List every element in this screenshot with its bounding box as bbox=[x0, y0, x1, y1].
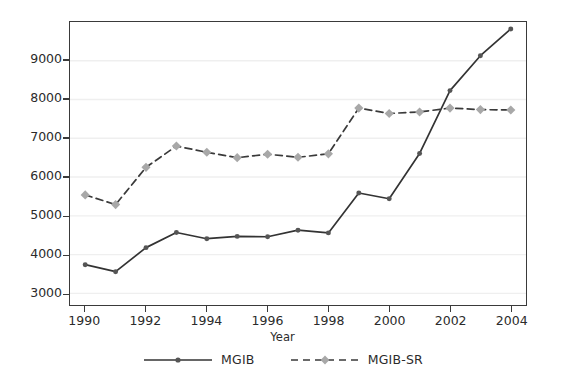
legend-label-mgib: MGIB bbox=[221, 352, 255, 367]
legend-swatch-solid-circle bbox=[142, 353, 214, 367]
x-tick-mark bbox=[84, 306, 85, 312]
y-tick-label: 5000 bbox=[30, 209, 62, 222]
data-point-marker-mgib-sr bbox=[506, 105, 515, 114]
chart-legend: MGIB MGIB-SR bbox=[0, 352, 565, 367]
x-tick-label: 1996 bbox=[252, 315, 284, 328]
data-point-marker-mgib bbox=[296, 228, 301, 233]
data-point-marker-mgib-sr bbox=[293, 153, 302, 162]
data-point-marker-mgib-sr bbox=[415, 107, 424, 116]
x-tick-mark bbox=[206, 306, 207, 312]
data-point-marker-mgib bbox=[174, 230, 179, 235]
y-tick-label: 6000 bbox=[30, 170, 62, 183]
x-tick-label: 1998 bbox=[313, 315, 345, 328]
data-point-marker-mgib-sr bbox=[324, 149, 333, 158]
data-point-marker-mgib bbox=[204, 236, 209, 241]
data-point-marker-mgib-sr bbox=[385, 109, 394, 118]
data-series-layer bbox=[70, 22, 526, 305]
data-point-marker-mgib-sr bbox=[233, 153, 242, 162]
y-tick-mark bbox=[63, 176, 69, 177]
legend-entry-mgib-sr: MGIB-SR bbox=[289, 352, 423, 367]
x-tick-label: 2004 bbox=[496, 315, 528, 328]
legend-entry-mgib: MGIB bbox=[142, 352, 255, 367]
data-point-marker-mgib-sr bbox=[202, 148, 211, 157]
data-point-marker-mgib bbox=[235, 234, 240, 239]
data-point-marker-mgib-sr bbox=[81, 190, 90, 199]
data-point-marker-mgib bbox=[326, 230, 331, 235]
data-point-marker-mgib-sr bbox=[476, 105, 485, 114]
x-tick-label: 1994 bbox=[190, 315, 222, 328]
x-tick-label: 1992 bbox=[129, 315, 161, 328]
y-tick-mark bbox=[63, 98, 69, 99]
chart-figure: 3000400050006000700080009000 19901992199… bbox=[0, 0, 565, 388]
data-point-marker-mgib-sr bbox=[445, 103, 454, 112]
x-tick-mark bbox=[511, 306, 512, 312]
data-point-marker-mgib bbox=[478, 53, 483, 58]
data-point-marker-mgib bbox=[144, 245, 149, 250]
y-tick-label: 8000 bbox=[30, 92, 62, 105]
data-point-marker-mgib-sr bbox=[172, 141, 181, 150]
x-tick-mark bbox=[145, 306, 146, 312]
series-line-mgib bbox=[85, 29, 511, 272]
data-point-marker-mgib bbox=[417, 151, 422, 156]
x-tick-mark bbox=[267, 306, 268, 312]
data-point-marker-mgib bbox=[387, 196, 392, 201]
data-point-marker-mgib bbox=[448, 88, 453, 93]
data-point-marker-mgib bbox=[113, 269, 118, 274]
x-tick-label: 2000 bbox=[374, 315, 406, 328]
x-tick-mark bbox=[328, 306, 329, 312]
x-tick-mark bbox=[389, 306, 390, 312]
x-tick-label: 2002 bbox=[435, 315, 467, 328]
y-tick-mark bbox=[63, 137, 69, 138]
data-point-marker-mgib bbox=[265, 234, 270, 239]
plot-area bbox=[69, 21, 527, 306]
y-tick-mark bbox=[63, 216, 69, 217]
x-tick-mark bbox=[450, 306, 451, 312]
data-point-marker-mgib-sr bbox=[354, 103, 363, 112]
data-point-marker-mgib-sr bbox=[263, 150, 272, 159]
y-tick-mark bbox=[63, 255, 69, 256]
legend-swatch-dashed-diamond bbox=[289, 353, 361, 367]
legend-label-mgib-sr: MGIB-SR bbox=[368, 352, 423, 367]
data-point-marker-mgib bbox=[356, 190, 361, 195]
y-tick-label: 7000 bbox=[30, 131, 62, 144]
y-tick-label: 4000 bbox=[30, 248, 62, 261]
y-tick-mark bbox=[63, 294, 69, 295]
x-axis-title: Year bbox=[0, 330, 565, 344]
x-tick-label: 1990 bbox=[68, 315, 100, 328]
data-point-marker-mgib bbox=[83, 262, 88, 267]
data-point-marker-mgib bbox=[508, 26, 513, 31]
y-tick-label: 3000 bbox=[30, 287, 62, 300]
y-tick-label: 9000 bbox=[30, 53, 62, 66]
y-tick-mark bbox=[63, 59, 69, 60]
